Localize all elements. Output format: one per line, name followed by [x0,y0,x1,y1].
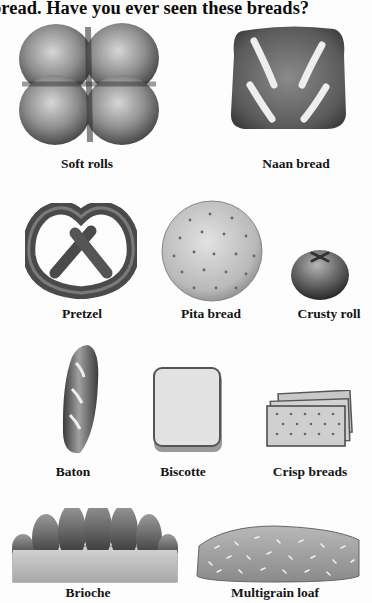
baton-illustration [60,343,102,456]
bread-label: Pretzel [62,306,102,322]
pretzel-illustration [25,203,137,299]
pita-bread-illustration [160,200,264,303]
bread-label: Crusty roll [297,306,360,322]
page-title: bread. Have you ever seen these breads? [0,0,309,19]
bread-label: Multigrain loaf [231,585,319,601]
bread-label: Biscotte [160,464,206,480]
crisp-breads-illustration [265,390,355,448]
crusty-roll-illustration [290,247,350,301]
bread-label: Crisp breads [273,464,347,480]
biscotte-illustration [152,366,224,453]
bread-label: Pita bread [181,306,241,322]
bread-label: Soft rolls [61,156,113,172]
multigrain-loaf-illustration [195,518,362,583]
bread-label: Naan bread [262,156,330,172]
bread-label: Baton [56,464,91,480]
bread-label: Brioche [66,585,111,601]
brioche-illustration [12,508,178,583]
soft-rolls-illustration [18,22,160,146]
naan-bread-illustration [228,25,348,131]
